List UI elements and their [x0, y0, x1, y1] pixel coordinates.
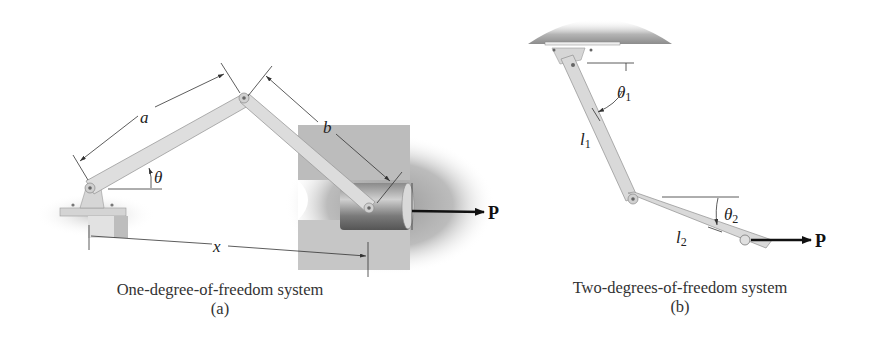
caption-b-title: Two-degrees-of-freedom system [530, 278, 830, 297]
link-a [86, 95, 248, 194]
figure-b: θ1 l1 θ2 l2 P [528, 20, 826, 252]
ceiling-support [528, 20, 672, 45]
label-theta1: θ1 [617, 83, 631, 104]
caption-b: Two-degrees-of-freedom system (b) [530, 278, 830, 316]
label-force-b: P [815, 231, 826, 251]
label-l1: l1 [580, 130, 591, 151]
caption-b-sublabel: (b) [530, 297, 830, 316]
label-x: x [212, 237, 221, 256]
label-theta2: θ2 [724, 205, 738, 226]
label-a: a [140, 108, 149, 127]
caption-a: One-degree-of-freedom system (a) [70, 280, 370, 318]
pin-end [740, 235, 750, 245]
label-force-a: P [488, 203, 499, 223]
force-arrow-a [412, 211, 484, 212]
label-theta: θ [154, 168, 162, 187]
label-l2: l2 [676, 228, 687, 249]
caption-a-title: One-degree-of-freedom system [70, 280, 370, 299]
link-l1 [561, 55, 637, 201]
figure-a: a b θ x P [35, 63, 499, 277]
caption-a-sublabel: (a) [70, 299, 370, 318]
label-b: b [323, 118, 332, 137]
link-l2 [628, 192, 772, 248]
